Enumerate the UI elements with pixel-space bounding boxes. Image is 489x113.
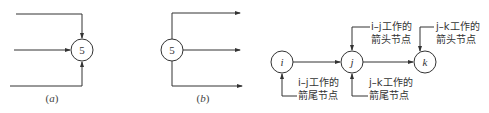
diagram-b: 5 (b)	[161, 13, 242, 105]
arrow-top-in	[16, 14, 82, 38]
label-ij-tail-1: i–j工作的	[298, 76, 339, 88]
label-ij-head-1: i–j工作的	[371, 20, 412, 32]
arrow-bottom-out	[172, 61, 242, 86]
pointer-ij-tail	[282, 74, 297, 96]
label-jk-tail-1: j–k工作的	[368, 76, 413, 88]
label-jk-head-2: 箭头节点	[436, 33, 476, 45]
node-5-b-label: 5	[169, 44, 175, 56]
network-diagram: 5 (a) 5 (b) i j k i–j工作的 箭头节点 j–k工作的 箭头节…	[0, 0, 489, 113]
node-i-label: i	[280, 56, 283, 68]
diagram-a: 5 (a)	[10, 14, 93, 105]
label-jk-head-1: j–k工作的	[435, 20, 480, 32]
diagram-c: i j k i–j工作的 箭头节点 j–k工作的 箭头节点 i–j工作的 箭尾节…	[271, 20, 480, 101]
label-ij-head-2: 箭头节点	[371, 33, 411, 45]
node-5-a-label: 5	[79, 44, 85, 56]
caption-b: (b)	[197, 92, 210, 105]
caption-a: (a)	[46, 92, 59, 105]
label-jk-tail-2: 箭尾节点	[369, 89, 409, 101]
arrow-top-out	[172, 13, 240, 39]
label-ij-tail-2: 箭尾节点	[298, 89, 338, 101]
arrow-bottom-in	[10, 62, 82, 86]
pointer-ij-head	[352, 27, 370, 50]
pointer-jk-head	[420, 27, 434, 51]
pointer-jk-tail	[352, 74, 368, 96]
